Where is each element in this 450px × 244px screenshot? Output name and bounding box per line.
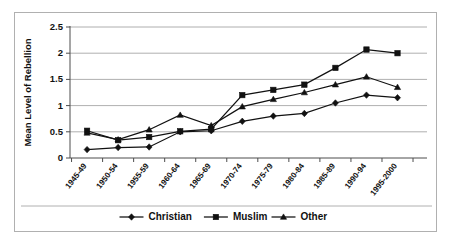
data-point: [177, 112, 183, 117]
y-tick-label: 0: [58, 152, 63, 163]
data-point: [395, 95, 401, 101]
x-tick-label: 1960-64: [157, 161, 183, 190]
y-tick-label: 1: [58, 100, 64, 111]
x-tick-label: 1955-59: [126, 161, 152, 190]
chart-frame: 00.511.522.5 1945-491950-541955-591960-6…: [14, 12, 437, 232]
y-axis-ticks: 00.511.522.5: [50, 21, 70, 163]
y-tick-label: 2.5: [50, 21, 64, 32]
y-tick-label: 2: [58, 47, 63, 58]
legend-label: Muslim: [233, 211, 268, 222]
data-point: [240, 92, 245, 97]
legend-marker: [129, 214, 135, 220]
legend-marker: [213, 214, 218, 219]
data-point: [146, 134, 151, 139]
data-point: [302, 82, 307, 87]
y-tick-label: 0.5: [50, 126, 64, 137]
data-point: [364, 47, 369, 52]
chart-legend: ChristianMuslimOther: [21, 206, 432, 222]
legend-label: Christian: [149, 211, 192, 222]
data-point: [363, 74, 369, 79]
x-tick-label: 1975-79: [250, 161, 276, 190]
x-tick-label: 1990-94: [343, 161, 369, 190]
data-point: [301, 110, 307, 116]
x-tick-label: 1970-74: [219, 161, 245, 190]
data-point: [178, 129, 183, 134]
y-axis-title: Mean Level of Rebellion: [22, 38, 33, 146]
x-tick-label: 1945-49: [63, 161, 89, 190]
data-point: [363, 92, 369, 98]
data-point: [239, 118, 245, 124]
data-point: [271, 87, 276, 92]
data-point: [270, 113, 276, 119]
legend-item-other: Other: [272, 211, 328, 222]
legend-item-christian: Christian: [120, 211, 192, 222]
data-point: [84, 146, 90, 152]
data-point: [395, 51, 400, 56]
x-axis-ticks: 1945-491950-541955-591960-641965-691970-…: [63, 158, 413, 197]
x-tick-label: 1965-69: [188, 161, 214, 190]
rebellion-line-chart: 00.511.522.5 1945-491950-541955-591960-6…: [15, 13, 438, 233]
series-muslim: [84, 47, 400, 143]
data-series: [84, 47, 401, 153]
data-point: [333, 65, 338, 70]
data-point: [115, 144, 121, 150]
y-tick-label: 1.5: [50, 73, 64, 84]
chart-plot-area: 00.511.522.5 1945-491950-541955-591960-6…: [15, 13, 438, 233]
legend-item-muslim: Muslim: [204, 211, 268, 222]
x-tick-label: 1950-54: [95, 161, 121, 190]
x-tick-label: 1995-2000: [368, 161, 399, 197]
series-christian: [84, 92, 400, 153]
legend-label: Other: [301, 211, 328, 222]
data-point: [146, 144, 152, 150]
x-tick-label: 1985-89: [312, 161, 338, 190]
x-tick-label: 1980-84: [281, 161, 307, 190]
y-axis-title-text: Mean Level of Rebellion: [22, 38, 33, 146]
